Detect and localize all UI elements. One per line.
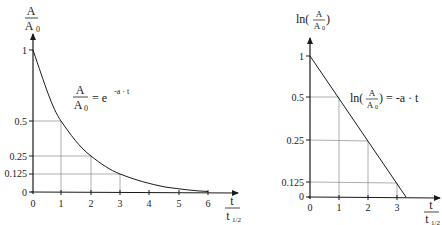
right-ytick-0.25: 0.25 bbox=[287, 135, 305, 146]
svg-text:0: 0 bbox=[84, 104, 88, 113]
right-xtick-3: 3 bbox=[395, 202, 400, 213]
svg-text:A: A bbox=[25, 19, 34, 33]
right-ytick-0: 0 bbox=[299, 191, 304, 202]
svg-text:t: t bbox=[425, 212, 429, 225]
left-y-label: A A 0 bbox=[25, 4, 40, 34]
svg-text:): ) bbox=[326, 12, 330, 26]
left-x-axis bbox=[31, 192, 238, 193]
svg-text:1/2: 1/2 bbox=[232, 216, 241, 224]
right-xtick-1: 1 bbox=[337, 202, 342, 213]
svg-text:-a · t: -a · t bbox=[114, 87, 130, 96]
left-helper-lines bbox=[33, 121, 120, 192]
right-xtick-2: 2 bbox=[366, 202, 371, 213]
svg-text:A: A bbox=[76, 83, 85, 97]
left-xtick-6: 6 bbox=[206, 198, 211, 209]
right-xtick-0: 0 bbox=[308, 202, 313, 213]
svg-text:t: t bbox=[429, 198, 433, 212]
svg-text:t: t bbox=[230, 194, 234, 208]
svg-text:1/2: 1/2 bbox=[431, 219, 440, 225]
left-xtick-3: 3 bbox=[118, 198, 123, 209]
left-xtick-1: 1 bbox=[59, 198, 64, 209]
left-xtick-5: 5 bbox=[177, 198, 182, 209]
svg-text:0: 0 bbox=[375, 104, 378, 110]
svg-text:A: A bbox=[314, 21, 321, 31]
right-ytick-1: 1 bbox=[299, 51, 304, 62]
left-chart: 1 0.5 0.25 0.125 0 0 1 2 3 4 5 6 A A 0 A bbox=[5, 4, 242, 224]
left-ytick-0.125: 0.125 bbox=[5, 168, 28, 179]
right-helper-lines bbox=[310, 97, 397, 197]
svg-text:= e: = e bbox=[92, 91, 107, 105]
svg-text:A: A bbox=[27, 4, 36, 18]
right-ytick-0.5: 0.5 bbox=[292, 92, 305, 103]
right-chart: 1 0.5 0.25 0.125 0 0 1 2 3 ln( A A 0 ) l… bbox=[282, 9, 441, 225]
right-ytick-0.125: 0.125 bbox=[282, 177, 305, 188]
left-ytick-0.25: 0.25 bbox=[10, 151, 28, 162]
svg-text:0: 0 bbox=[322, 25, 325, 31]
svg-text:ln(: ln( bbox=[350, 91, 363, 105]
svg-text:t: t bbox=[226, 209, 230, 223]
svg-text:) = -a · t: ) = -a · t bbox=[379, 91, 419, 105]
chart-canvas: 1 0.5 0.25 0.125 0 0 1 2 3 4 5 6 A A 0 A bbox=[0, 0, 442, 225]
right-ln-line bbox=[310, 56, 406, 197]
svg-text:A: A bbox=[367, 100, 374, 110]
svg-text:ln(: ln( bbox=[296, 12, 309, 26]
left-ytick-0: 0 bbox=[22, 187, 27, 198]
left-ytick-0.5: 0.5 bbox=[15, 116, 28, 127]
left-ytick-1: 1 bbox=[22, 45, 27, 56]
left-xtick-4: 4 bbox=[147, 198, 152, 209]
svg-text:0: 0 bbox=[36, 25, 40, 34]
right-x-label: t t 1/2 bbox=[424, 198, 440, 225]
svg-text:A: A bbox=[74, 98, 83, 112]
svg-text:A: A bbox=[316, 9, 323, 19]
right-equation: ln( A A 0 ) = -a · t bbox=[350, 88, 419, 110]
right-x-axis bbox=[308, 197, 440, 198]
left-xtick-2: 2 bbox=[89, 198, 94, 209]
left-equation: A A 0 = e -a · t bbox=[73, 83, 130, 113]
left-x-label: t t 1/2 bbox=[225, 194, 241, 224]
svg-text:A: A bbox=[369, 88, 376, 98]
right-y-label: ln( A A 0 ) bbox=[296, 9, 330, 31]
left-xtick-0: 0 bbox=[31, 198, 36, 209]
